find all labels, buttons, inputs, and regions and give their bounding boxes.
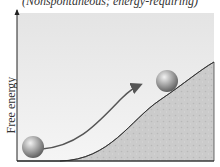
ball-low-energy — [22, 136, 44, 158]
free-energy-diagram — [0, 0, 220, 167]
y-axis-arrow-icon — [15, 9, 20, 15]
ball-high-energy — [156, 70, 178, 92]
